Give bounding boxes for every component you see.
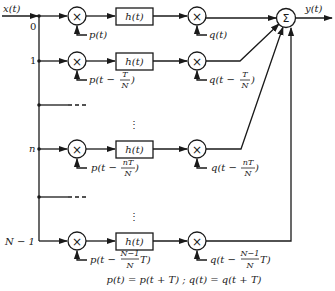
branch-n: n × h(t) × p(t − nT N ) q(t − nT N ) (29, 27, 283, 178)
p-label: p(t − (89, 74, 115, 85)
filter-label: h(t) (125, 236, 143, 247)
q-suffix: T) (260, 254, 271, 265)
q-fraction-num: nT (243, 158, 254, 167)
multiply-icon: × (192, 10, 202, 24)
branch-index: n (29, 143, 35, 154)
vdots: ⋮ (129, 211, 139, 222)
multiply-icon: × (72, 235, 82, 249)
q-fraction-den: N (241, 81, 250, 90)
periodicity-footnote: p(t) = p(t + T) ; q(t) = q(t + T) (107, 274, 262, 285)
multiply-icon: × (72, 143, 82, 157)
multiply-icon: × (192, 143, 202, 157)
output-label: y(t) (304, 3, 323, 14)
vdots: ⋮ (129, 119, 139, 130)
p-fraction-den: N (126, 261, 135, 270)
p-suffix: T) (140, 254, 151, 265)
branch-1: 1 × h(t) × p(t − T N ) q(t − T N ) (30, 24, 279, 90)
filter-label: h(t) (125, 144, 143, 155)
branch-0: 0 × h(t) × p(t) q(t) (30, 7, 276, 40)
q-label: q(t − (210, 254, 236, 265)
p-fraction-num: N−1 (120, 249, 140, 258)
q-suffix: ) (250, 74, 255, 85)
block-diagram: x(t) 0 × h(t) × p(t) q(t) 1 × h(t) × (0, 0, 335, 291)
filter-label: h(t) (125, 11, 143, 22)
sigma-icon: Σ (283, 12, 290, 25)
q-label: q(t − (209, 74, 235, 85)
branch-index: N − 1 (4, 236, 35, 247)
multiply-icon: × (192, 55, 202, 69)
multiply-icon: × (72, 55, 82, 69)
p-suffix: ) (130, 74, 135, 85)
q-fraction-den: N (246, 261, 255, 270)
p-label: p(t − (91, 162, 117, 173)
filter-label: h(t) (125, 56, 143, 67)
q-label: q(t − (211, 162, 237, 173)
p-suffix: ) (134, 162, 139, 173)
q-suffix: ) (254, 162, 259, 173)
p-fraction-num: nT (123, 158, 134, 167)
p-label: p(t − (90, 254, 116, 265)
q-fraction-num: T (242, 70, 248, 79)
q-fraction-num: N−1 (240, 249, 260, 258)
multiply-icon: × (192, 235, 202, 249)
p-fraction-num: T (122, 70, 128, 79)
branch-index: 1 (30, 55, 36, 66)
multiply-icon: × (72, 10, 82, 24)
q-label: q(t) (209, 29, 227, 40)
p-fraction-den: N (121, 81, 130, 90)
input-label: x(t) (3, 3, 21, 14)
q-fraction-den: N (244, 169, 253, 178)
p-fraction-den: N (124, 169, 133, 178)
branch-index: 0 (30, 21, 36, 32)
p-label: p(t) (89, 29, 107, 40)
